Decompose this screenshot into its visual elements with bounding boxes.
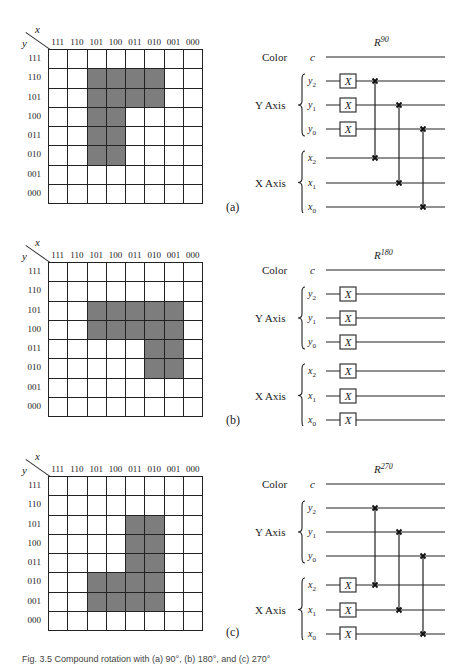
x-gate-x2: X: [340, 364, 356, 378]
wire-label-y0: y0: [307, 336, 316, 350]
x-gate-y0: X: [340, 122, 356, 136]
quantum-circuit: R270ColorcY AxisX Axisy2y1y0x2x1x0XXX: [0, 427, 468, 640]
color-wire-label: c: [310, 264, 315, 276]
wire-label-x0: x0: [307, 628, 316, 640]
color-label: Color: [262, 264, 287, 276]
svg-text:X: X: [344, 579, 353, 591]
panel-label-c: (c): [226, 625, 239, 640]
x-axis-group-label: X Axis: [255, 390, 286, 402]
circuit-title: R270: [373, 462, 393, 475]
wire-label-x2: x2: [307, 152, 316, 166]
swap-gate-y1-x1: [397, 530, 402, 613]
y-axis-brace: [298, 74, 305, 136]
wire-label-x0: x0: [307, 414, 316, 426]
panel-a: xy11111010110001101000100011111010110001…: [0, 0, 468, 213]
svg-text:X: X: [344, 628, 353, 640]
svg-text:X: X: [344, 604, 353, 616]
svg-text:X: X: [344, 365, 353, 377]
x-axis-group-label: X Axis: [255, 604, 286, 616]
quantum-circuit: R180ColorcY AxisX Axisy2y1y0x2x1x0XXXXXX: [0, 213, 468, 426]
wire-label-y0: y0: [307, 123, 316, 137]
x-axis-group-label: X Axis: [255, 177, 286, 189]
x-axis-brace: [298, 578, 305, 640]
svg-text:X: X: [344, 75, 353, 87]
svg-text:X: X: [344, 414, 353, 426]
x-axis-brace: [298, 364, 305, 426]
y-axis-group-label: Y Axis: [255, 99, 285, 111]
wire-label-x0: x0: [307, 201, 316, 213]
panel-b: xy11111010110001101000100011111010110001…: [0, 213, 468, 426]
svg-text:X: X: [344, 123, 353, 135]
x-gate-y2: X: [340, 74, 356, 88]
svg-text:X: X: [344, 336, 353, 348]
wire-label-x1: x1: [307, 177, 316, 191]
x-gate-x0: X: [340, 413, 356, 426]
wire-label-x1: x1: [307, 390, 316, 404]
swap-gate-y0-x0: [421, 127, 426, 210]
figure-caption: Fig. 3.5 Compound rotation with (a) 90°,…: [22, 654, 270, 664]
x-gate-y1: X: [340, 98, 356, 112]
x-gate-x2: X: [340, 578, 356, 592]
wire-label-x2: x2: [307, 365, 316, 379]
wire-label-y0: y0: [307, 550, 316, 564]
circuit-title: R90: [373, 35, 389, 48]
quantum-circuit: R90ColorcY AxisX Axisy2y1y0x2x1x0XXX: [0, 0, 468, 213]
wire-label-y2: y2: [307, 75, 316, 89]
wire-label-y1: y1: [307, 312, 316, 326]
color-label: Color: [262, 51, 287, 63]
swap-gate-y2-x2: [373, 79, 378, 161]
x-gate-x1: X: [340, 603, 356, 617]
panel-c: xy11111010110001101000100011111010110001…: [0, 427, 468, 640]
color-wire-label: c: [310, 478, 315, 490]
y-axis-brace: [298, 287, 305, 349]
panel-label-b: (b): [226, 413, 240, 428]
swap-gate-y2-x2: [373, 506, 378, 588]
svg-text:X: X: [344, 288, 353, 300]
x-gate-y1: X: [340, 311, 356, 325]
wire-label-x1: x1: [307, 604, 316, 618]
y-axis-group-label: Y Axis: [255, 312, 285, 324]
wire-label-y2: y2: [307, 502, 316, 516]
y-axis-group-label: Y Axis: [255, 526, 285, 538]
x-gate-x1: X: [340, 389, 356, 403]
svg-text:X: X: [344, 390, 353, 402]
x-gate-y2: X: [340, 287, 356, 301]
color-wire-label: c: [310, 51, 315, 63]
circuit-title: R180: [373, 248, 393, 261]
swap-gate-y0-x0: [421, 554, 426, 637]
svg-text:X: X: [344, 312, 353, 324]
wire-label-y2: y2: [307, 288, 316, 302]
wire-label-x2: x2: [307, 579, 316, 593]
y-axis-brace: [298, 501, 305, 563]
x-axis-brace: [298, 151, 305, 213]
color-label: Color: [262, 478, 287, 490]
wire-label-y1: y1: [307, 526, 316, 540]
wire-label-y1: y1: [307, 99, 316, 113]
svg-text:X: X: [344, 99, 353, 111]
x-gate-x0: X: [340, 627, 356, 640]
swap-gate-y1-x1: [397, 103, 402, 186]
x-gate-y0: X: [340, 335, 356, 349]
